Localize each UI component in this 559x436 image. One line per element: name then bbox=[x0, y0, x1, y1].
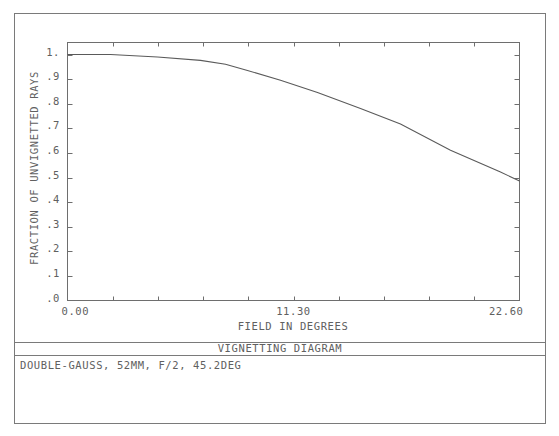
y-ticks bbox=[68, 56, 520, 277]
x-tick-label: 22.60 bbox=[489, 305, 524, 317]
y-tick-label: .1 bbox=[46, 267, 60, 279]
y-axis-label: FRACTION OF UNVIGNETTED RAYS bbox=[28, 71, 40, 265]
y-tick-label: .8 bbox=[46, 95, 60, 107]
y-tick-label: .2 bbox=[46, 242, 60, 254]
x-tick-label: 0.00 bbox=[62, 305, 90, 317]
y-tick-label: .5 bbox=[46, 169, 60, 181]
y-tick-label: .0 bbox=[46, 292, 60, 304]
y-tick-labels: .0.1.2.3.4.5.6.7.8.91. bbox=[46, 46, 60, 304]
chart-title: VIGNETTING DIAGRAM bbox=[218, 342, 343, 354]
plot-area bbox=[68, 43, 520, 301]
y-tick-label: .4 bbox=[46, 193, 60, 205]
chart-description: DOUBLE-GAUSS, 52MM, F/2, 45.2DEG bbox=[20, 359, 242, 371]
x-tick-label: 11.30 bbox=[276, 305, 311, 317]
y-tick-label: .9 bbox=[46, 70, 60, 82]
vignetting-curve bbox=[68, 55, 520, 181]
x-minor-ticks bbox=[114, 43, 475, 301]
x-axis-label: FIELD IN DEGREES bbox=[238, 320, 349, 332]
y-tick-label: 1. bbox=[46, 46, 60, 58]
y-tick-label: .3 bbox=[46, 218, 60, 230]
vignetting-chart: 0.0011.3022.60 .0.1.2.3.4.5.6.7.8.91. FI… bbox=[0, 0, 559, 436]
y-tick-label: .6 bbox=[46, 144, 60, 156]
y-tick-label: .7 bbox=[46, 119, 60, 131]
x-tick-labels: 0.0011.3022.60 bbox=[62, 305, 524, 317]
